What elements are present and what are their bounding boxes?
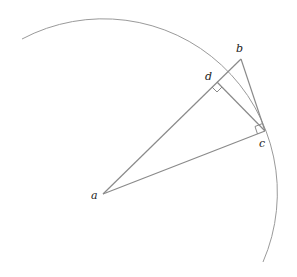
segment-ab (103, 59, 241, 194)
label-b: b (236, 42, 243, 55)
label-d: d (205, 70, 212, 83)
label-a: a (91, 189, 98, 202)
geometry-diagram: a b c d (0, 0, 297, 277)
segment-bc (241, 59, 265, 131)
segment-ac (103, 131, 265, 194)
right-angle-marker-d (212, 87, 222, 92)
circle-arc (22, 19, 277, 262)
segment-dc (217, 82, 265, 131)
label-c: c (259, 137, 265, 150)
